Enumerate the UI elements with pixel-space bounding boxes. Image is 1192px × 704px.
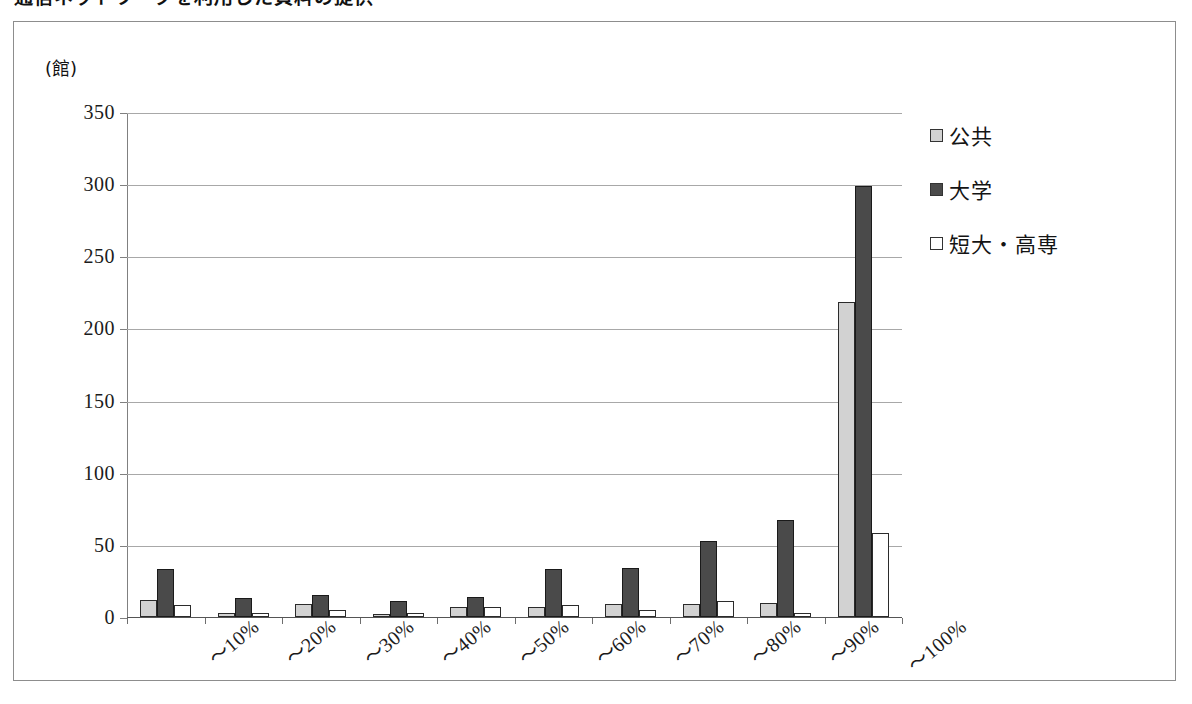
bar[interactable] bbox=[605, 604, 622, 617]
bar-group bbox=[838, 112, 889, 617]
x-tick-label: ～50% bbox=[510, 611, 574, 671]
bar[interactable] bbox=[838, 302, 855, 617]
legend-entry[interactable]: 大学 bbox=[930, 162, 1150, 216]
page-title: 通信ネットワークを利用した資料の提供 bbox=[14, 0, 374, 9]
bar[interactable] bbox=[373, 614, 390, 617]
y-tick-label: 300 bbox=[84, 173, 116, 196]
bar[interactable] bbox=[777, 520, 794, 617]
legend-swatch-icon bbox=[930, 129, 943, 142]
bar[interactable] bbox=[562, 605, 579, 617]
x-tick-mark bbox=[670, 618, 671, 624]
y-tick-label: 250 bbox=[84, 245, 116, 268]
bar-group bbox=[295, 112, 346, 617]
y-tick-mark bbox=[120, 329, 127, 330]
x-tick-label: ～30% bbox=[355, 611, 419, 671]
y-axis-line bbox=[127, 113, 128, 619]
y-tick-mark bbox=[120, 257, 127, 258]
bar-group bbox=[683, 112, 734, 617]
y-tick-mark bbox=[120, 185, 127, 186]
x-tick-label: ～10% bbox=[200, 611, 264, 671]
legend-swatch-icon bbox=[930, 183, 943, 196]
x-tick-mark bbox=[127, 618, 128, 624]
chart-legend: 公共大学短大・高専 bbox=[930, 108, 1150, 270]
legend-label: 短大・高専 bbox=[949, 228, 1059, 258]
y-tick-label: 100 bbox=[84, 462, 116, 485]
y-tick-label: 200 bbox=[84, 317, 116, 340]
legend-label: 公共 bbox=[949, 120, 993, 150]
y-tick-mark bbox=[120, 618, 127, 619]
bar[interactable] bbox=[218, 613, 235, 617]
bar[interactable] bbox=[174, 605, 191, 617]
chart-plot-area: 050100150200250300350 bbox=[127, 113, 902, 618]
bar[interactable] bbox=[140, 600, 157, 617]
x-tick-label: ～80% bbox=[743, 611, 807, 671]
figure-frame: (館) 050100150200250300350 ～10%～20%～30%～4… bbox=[13, 21, 1176, 681]
bar[interactable] bbox=[484, 607, 501, 617]
bar-group bbox=[605, 112, 656, 617]
bar[interactable] bbox=[683, 604, 700, 617]
y-tick-label: 0 bbox=[105, 606, 116, 629]
bar[interactable] bbox=[252, 613, 269, 617]
legend-entry[interactable]: 公共 bbox=[930, 108, 1150, 162]
bar-group bbox=[373, 112, 424, 617]
bar[interactable] bbox=[639, 610, 656, 617]
y-tick-mark bbox=[120, 113, 127, 114]
x-tick-mark bbox=[282, 618, 283, 624]
bar[interactable] bbox=[700, 541, 717, 617]
bar[interactable] bbox=[329, 610, 346, 617]
x-tick-label: ～90% bbox=[820, 611, 884, 671]
y-tick-mark bbox=[120, 402, 127, 403]
bar-group bbox=[140, 112, 191, 617]
bar[interactable] bbox=[450, 607, 467, 617]
y-tick-label: 150 bbox=[84, 390, 116, 413]
x-tick-mark bbox=[902, 618, 903, 624]
x-tick-mark bbox=[515, 618, 516, 624]
legend-label: 大学 bbox=[949, 174, 993, 204]
bar-group bbox=[218, 112, 269, 617]
x-tick-mark bbox=[437, 618, 438, 624]
x-tick-mark bbox=[360, 618, 361, 624]
x-tick-mark bbox=[825, 618, 826, 624]
x-tick-mark bbox=[205, 618, 206, 624]
x-tick-label: ～100% bbox=[900, 611, 972, 678]
y-tick-mark bbox=[120, 546, 127, 547]
legend-swatch-icon bbox=[930, 237, 943, 250]
y-axis-unit-label: (館) bbox=[45, 54, 77, 80]
x-tick-mark bbox=[592, 618, 593, 624]
bar[interactable] bbox=[872, 533, 889, 617]
x-tick-label: ～40% bbox=[433, 611, 497, 671]
y-tick-mark bbox=[120, 474, 127, 475]
x-tick-label: ～20% bbox=[278, 611, 342, 671]
page-title-strip: 通信ネットワークを利用した資料の提供 bbox=[0, 0, 1192, 14]
x-tick-mark bbox=[747, 618, 748, 624]
bar[interactable] bbox=[717, 601, 734, 617]
bar[interactable] bbox=[157, 569, 174, 617]
bar-group bbox=[450, 112, 501, 617]
bar[interactable] bbox=[760, 603, 777, 617]
bar[interactable] bbox=[295, 604, 312, 617]
bar[interactable] bbox=[528, 607, 545, 617]
y-tick-label: 350 bbox=[84, 101, 116, 124]
bar-group bbox=[760, 112, 811, 617]
bar[interactable] bbox=[407, 613, 424, 617]
bar[interactable] bbox=[622, 568, 639, 617]
legend-entry[interactable]: 短大・高専 bbox=[930, 216, 1150, 270]
y-tick-label: 50 bbox=[94, 534, 115, 557]
bar-group bbox=[528, 112, 579, 617]
bar[interactable] bbox=[794, 613, 811, 617]
bar[interactable] bbox=[545, 569, 562, 617]
x-tick-label: ～60% bbox=[588, 611, 652, 671]
x-tick-label: ～70% bbox=[665, 611, 729, 671]
bar[interactable] bbox=[855, 186, 872, 617]
